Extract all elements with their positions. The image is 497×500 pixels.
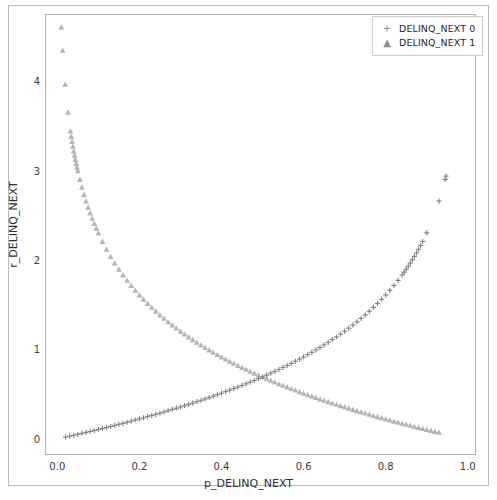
- legend-item-delinq-next-0[interactable]: + DELINQ_NEXT 0: [379, 22, 475, 35]
- triangle-marker-icon: ▲: [379, 38, 395, 48]
- series-triangle: [59, 24, 442, 435]
- y-tick-label: 0: [10, 433, 40, 444]
- x-tick-label: 0.2: [131, 461, 147, 472]
- x-tick-label: 0.6: [296, 461, 312, 472]
- x-axis-tick-labels: 0.00.20.40.60.81.0: [0, 461, 497, 477]
- legend-label-delinq-next-0: DELINQ_NEXT 0: [395, 23, 475, 34]
- x-tick-label: 0.0: [49, 461, 65, 472]
- x-axis-label: p_DELINQ_NEXT: [0, 477, 497, 490]
- legend-label-delinq-next-1: DELINQ_NEXT 1: [395, 37, 475, 48]
- chart-legend: + DELINQ_NEXT 0 ▲ DELINQ_NEXT 1: [372, 16, 483, 56]
- y-axis-label: r_DELINQ_NEXT: [7, 165, 20, 285]
- y-tick-label: 4: [10, 76, 40, 87]
- x-tick-label: 0.8: [378, 461, 394, 472]
- figure-container: 01234 0.00.20.40.60.81.0 p_DELINQ_NEXT r…: [0, 0, 497, 500]
- legend-item-delinq-next-1[interactable]: ▲ DELINQ_NEXT 1: [379, 36, 475, 49]
- scatter-plot-canvas: [45, 14, 476, 455]
- series-plus: [63, 173, 449, 439]
- y-tick-label: 1: [10, 344, 40, 355]
- plus-marker-icon: +: [379, 24, 395, 34]
- x-tick-label: 0.4: [214, 461, 230, 472]
- x-tick-label: 1.0: [460, 461, 476, 472]
